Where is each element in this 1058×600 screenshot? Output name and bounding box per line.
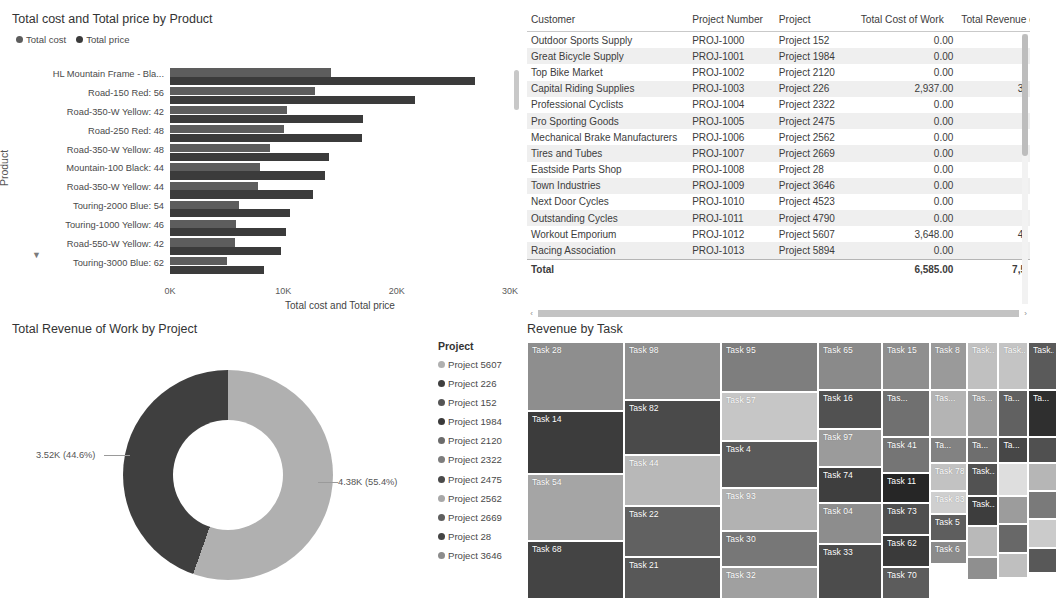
bar-segment-total-cost[interactable] bbox=[170, 163, 260, 171]
treemap-cell[interactable]: Task 78 bbox=[931, 464, 966, 490]
treemap-cell[interactable] bbox=[1029, 520, 1056, 546]
donut-legend-item[interactable]: Project 152 bbox=[438, 397, 522, 408]
bar-group[interactable]: Touring-1000 Yellow: 46 bbox=[170, 219, 510, 238]
table-row[interactable]: Racing AssociationPROJ-1013Project 58940… bbox=[527, 242, 1030, 259]
bar-segment-total-cost[interactable] bbox=[170, 68, 331, 76]
donut-legend-item[interactable]: Project 1984 bbox=[438, 416, 522, 427]
treemap-cell[interactable]: Task 4 bbox=[722, 442, 817, 488]
bar-segment-total-price[interactable] bbox=[170, 228, 286, 236]
bar-segment-total-cost[interactable] bbox=[170, 144, 270, 152]
treemap-cell[interactable]: Task 65 bbox=[819, 343, 881, 389]
donut-legend-items[interactable]: Project 5607Project 226Project 152Projec… bbox=[438, 359, 522, 561]
table-row[interactable]: Next Door CyclesPROJ-1010Project 45230.0… bbox=[527, 194, 1030, 210]
treemap-cell[interactable]: Task 11 bbox=[883, 474, 929, 502]
treemap-cell[interactable]: Task 57 bbox=[722, 393, 817, 440]
donut-ring[interactable] bbox=[123, 370, 333, 580]
bar-segment-total-cost[interactable] bbox=[170, 125, 284, 133]
table-row[interactable]: Outdoor Sports SupplyPROJ-1000Project 15… bbox=[527, 32, 1030, 49]
treemap-cell[interactable] bbox=[968, 527, 997, 556]
bar-group[interactable]: Road-350-W Yellow: 42 bbox=[170, 106, 510, 125]
bar-segment-total-price[interactable] bbox=[170, 115, 363, 123]
donut-legend[interactable]: Project Project 5607Project 226Project 1… bbox=[438, 340, 522, 569]
bar-segment-total-price[interactable] bbox=[170, 209, 290, 217]
table-row[interactable]: Town IndustriesPROJ-1009Project 36460.00 bbox=[527, 178, 1030, 194]
scroll-right-arrow-icon[interactable]: › bbox=[1021, 309, 1030, 318]
treemap-cell[interactable]: Task 68 bbox=[528, 542, 623, 598]
treemap-cell[interactable]: Task 6 bbox=[931, 542, 966, 563]
treemap-cell[interactable]: Tas... bbox=[931, 391, 966, 437]
treemap-cell[interactable]: Task 74 bbox=[819, 468, 881, 502]
bar-segment-total-price[interactable] bbox=[170, 190, 313, 198]
donut-legend-item[interactable]: Project 5607 bbox=[438, 359, 522, 370]
treemap-cell[interactable]: Task 14 bbox=[528, 412, 623, 473]
treemap-cell[interactable]: Task 41 bbox=[883, 438, 929, 472]
table-row[interactable]: Outstanding CyclesPROJ-1011Project 47900… bbox=[527, 210, 1030, 226]
bar-chart-legend[interactable]: Total cost Total price bbox=[16, 34, 129, 45]
bar-segment-total-cost[interactable] bbox=[170, 257, 227, 265]
bar-group[interactable]: Road-250 Red: 48 bbox=[170, 125, 510, 144]
treemap-cell[interactable]: Task 32 bbox=[722, 568, 817, 598]
bar-group[interactable]: Road-550-W Yellow: 42 bbox=[170, 238, 510, 257]
treemap-cell[interactable]: Task... bbox=[999, 343, 1026, 389]
donut-legend-item[interactable]: Project 2475 bbox=[438, 474, 522, 485]
treemap-cell[interactable]: Task 73 bbox=[883, 504, 929, 534]
treemap-cell[interactable]: Tas... bbox=[968, 391, 997, 437]
bar-segment-total-price[interactable] bbox=[170, 266, 264, 274]
treemap-cell[interactable] bbox=[999, 497, 1026, 523]
donut-legend-item[interactable]: Project 2562 bbox=[438, 493, 522, 504]
bar-segment-total-price[interactable] bbox=[170, 171, 325, 179]
projects-table[interactable]: CustomerProject NumberProjectTotal Cost … bbox=[527, 10, 1030, 277]
treemap-cell[interactable]: Task 95 bbox=[722, 343, 817, 391]
treemap-cell[interactable] bbox=[999, 525, 1026, 551]
bar-segment-total-cost[interactable] bbox=[170, 106, 287, 114]
treemap-cell[interactable]: Task... bbox=[1029, 343, 1056, 389]
donut-legend-item[interactable]: Project 2322 bbox=[438, 454, 522, 465]
treemap-cell[interactable]: Task 70 bbox=[883, 568, 929, 598]
bar-chart-visual[interactable]: Total cost and Total price by Product To… bbox=[8, 12, 520, 312]
bar-segment-total-cost[interactable] bbox=[170, 238, 235, 246]
treemap-cell[interactable]: Task 16 bbox=[819, 391, 881, 429]
table-column-header[interactable]: Project bbox=[775, 10, 857, 32]
donut-legend-item[interactable]: Project 2120 bbox=[438, 435, 522, 446]
treemap-cell[interactable] bbox=[1029, 464, 1056, 490]
treemap-cell[interactable]: Task 28 bbox=[528, 343, 623, 410]
treemap-cell[interactable] bbox=[999, 464, 1026, 495]
treemap-cell[interactable]: Task 44 bbox=[625, 456, 720, 505]
treemap-cell[interactable]: Ta... bbox=[999, 391, 1026, 437]
bar-group[interactable]: Road-350-W Yellow: 44 bbox=[170, 181, 510, 200]
table-row[interactable]: Workout EmporiumPROJ-1012Project 56073,6… bbox=[527, 226, 1030, 242]
bar-group[interactable]: Touring-3000 Blue: 62 bbox=[170, 257, 510, 276]
table-column-header[interactable]: Customer bbox=[527, 10, 688, 32]
treemap-cell[interactable]: Task 15 bbox=[883, 343, 929, 389]
treemap-cell[interactable]: Task 04 bbox=[819, 504, 881, 543]
treemap-cell[interactable]: Task 33 bbox=[819, 545, 881, 598]
treemap-cell[interactable] bbox=[1029, 549, 1056, 573]
treemap-cell[interactable]: Task 8 bbox=[931, 343, 966, 389]
treemap-cell[interactable]: Task... bbox=[968, 343, 997, 389]
bar-segment-total-price[interactable] bbox=[170, 247, 281, 255]
donut-legend-item[interactable]: Project 28 bbox=[438, 531, 522, 542]
treemap-cell[interactable] bbox=[968, 558, 997, 579]
treemap-cell[interactable]: Task... bbox=[968, 497, 997, 525]
donut-legend-item[interactable]: Project 2669 bbox=[438, 512, 522, 523]
table-row[interactable]: Top Bike MarketPROJ-1002Project 21200.00 bbox=[527, 64, 1030, 80]
table-row[interactable]: Professional CyclistsPROJ-1004Project 23… bbox=[527, 97, 1030, 113]
treemap-cell[interactable] bbox=[1029, 492, 1056, 518]
treemap-cell[interactable]: Task 98 bbox=[625, 343, 720, 399]
treemap-cell[interactable]: Task 62 bbox=[883, 536, 929, 566]
donut-legend-item[interactable]: Project 226 bbox=[438, 378, 522, 389]
table-column-header[interactable]: Project Number bbox=[688, 10, 775, 32]
table-row[interactable]: Eastside Parts ShopPROJ-1008Project 280.… bbox=[527, 162, 1030, 178]
bar-chart-scrollbar[interactable] bbox=[514, 70, 519, 110]
treemap-cell[interactable] bbox=[1029, 438, 1056, 462]
bar-group[interactable]: Touring-2000 Blue: 54 bbox=[170, 200, 510, 219]
table-row[interactable]: Great Bicycle SupplyPROJ-1001Project 198… bbox=[527, 48, 1030, 64]
treemap-cell[interactable]: Task 97 bbox=[819, 430, 881, 465]
bar-segment-total-cost[interactable] bbox=[170, 201, 239, 209]
bar-segment-total-cost[interactable] bbox=[170, 220, 236, 228]
scroll-left-arrow-icon[interactable]: ‹ bbox=[527, 309, 536, 318]
table-row[interactable]: Pro Sporting GoodsPROJ-1005Project 24750… bbox=[527, 113, 1030, 129]
treemap-cell[interactable]: Tas... bbox=[883, 391, 929, 437]
legend-item-total-cost[interactable]: Total cost bbox=[16, 34, 66, 45]
table-body[interactable]: Outdoor Sports SupplyPROJ-1000Project 15… bbox=[527, 32, 1030, 278]
